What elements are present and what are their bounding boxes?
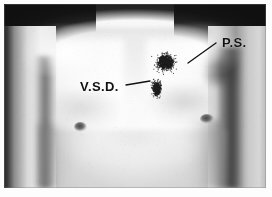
torso-photograph: P.S. V.S.D. bbox=[4, 4, 266, 188]
photo-film-grain bbox=[4, 4, 266, 188]
figure-panel: P.S. V.S.D. bbox=[0, 0, 272, 197]
